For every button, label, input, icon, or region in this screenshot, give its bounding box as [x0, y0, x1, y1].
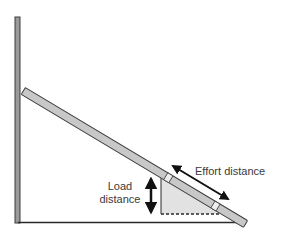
load-label-line1: Load	[95, 180, 145, 193]
load-distance-label: Load distance	[95, 180, 145, 206]
effort-distance-label: Effort distance	[195, 165, 265, 178]
load-label-line2: distance	[95, 193, 145, 206]
ramp-plank	[21, 88, 247, 228]
vertical-post	[15, 17, 20, 223]
